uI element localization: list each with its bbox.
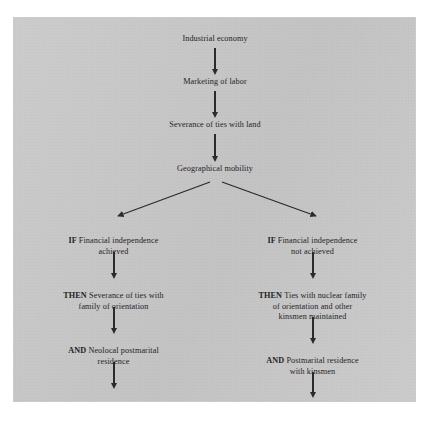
branch-right-step-1-keyword: IF: [268, 236, 278, 245]
branch-left-step-3: AND Neolocal postmarital residence: [33, 336, 194, 367]
branch-left-step-1-keyword: IF: [69, 236, 79, 245]
flowchart-figure: Industrial economy Marketing of labor Se…: [0, 0, 430, 428]
branch-left-step-1: IF Financial independence achieved: [33, 226, 194, 257]
branch-left-step-3-keyword: AND: [68, 346, 88, 355]
branch-right-step-3: AND Postmarital residence with kinsmen: [232, 346, 393, 377]
node-industrial-economy: Industrial economy: [100, 34, 330, 44]
branch-left-step-2: THEN Severance of ties with family of or…: [33, 281, 194, 312]
node-severance-of-ties-with-land: Severance of ties with land: [85, 120, 345, 130]
node-geographical-mobility: Geographical mobility: [100, 164, 330, 174]
branch-left-step-3-text: Neolocal postmarital residence: [88, 346, 158, 365]
branch-left-step-2-text: Severance of ties with family of orienta…: [79, 291, 164, 310]
arrow-marketing-to-severance: [200, 91, 230, 118]
branch-right-step-4: AND Extended family household pools stra…: [225, 400, 400, 401]
branch-right-step-3-keyword: AND: [266, 356, 286, 365]
branch-left-step-2-keyword: THEN: [63, 291, 89, 300]
branch-right-step-2-keyword: THEN: [258, 291, 284, 300]
branch-right-step-2-text: Ties with nuclear family of orientation …: [273, 291, 367, 321]
diagram-panel: Industrial economy Marketing of labor Se…: [14, 18, 415, 401]
branch-right-step-1-text: Financial independence not achieved: [278, 236, 358, 255]
branch-left-step-4: AND Individual and his/her nuclear famil…: [28, 391, 199, 401]
branch-right-step-1: IF Financial independence not achieved: [232, 226, 393, 257]
branch-right-step-2: THEN Ties with nuclear family of orienta…: [232, 281, 393, 323]
arrow-industrial-to-marketing: [200, 48, 230, 75]
branch-left-step-1-text: Financial independence achieved: [79, 236, 159, 255]
branch-right-step-3-text: Postmarital residence with kinsmen: [286, 356, 358, 375]
arrow-mobility-to-right-branch: [204, 178, 339, 226]
node-marketing-of-labor: Marketing of labor: [100, 77, 330, 87]
arrow-severance-to-mobility: [200, 134, 230, 162]
